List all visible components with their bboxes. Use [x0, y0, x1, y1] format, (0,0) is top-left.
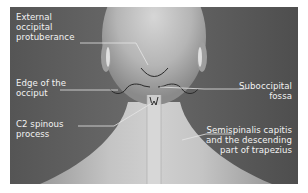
label-c2-spinous-process: C2 spinous process — [16, 119, 64, 139]
spine-strip — [147, 95, 161, 184]
right-ear-highlight — [198, 47, 202, 67]
label-edge-of-the-occiput: Edge of the occiput — [16, 78, 66, 98]
label-semispinalis-trapezius: Semispinalis capitis and the descending … — [206, 125, 292, 155]
label-suboccipital-fossa: Suboccipital fossa — [239, 81, 292, 101]
label-external-occipital-protuberance: External occipital protuberance — [16, 12, 74, 42]
anatomy-figure: External occipital protuberance Edge of … — [10, 7, 298, 184]
left-ear-highlight — [106, 47, 110, 67]
